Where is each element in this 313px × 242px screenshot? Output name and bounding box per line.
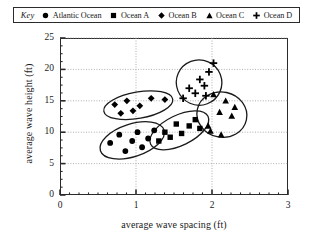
data-point-circle-marker-icon: [151, 127, 157, 133]
data-point-circle-marker-icon: [135, 129, 141, 135]
data-point-plus-marker-icon: [201, 82, 208, 89]
data-point-circle-marker-icon: [116, 132, 122, 138]
data-point-square-marker-icon: [193, 117, 198, 122]
data-point-circle-marker-icon: [122, 148, 128, 154]
data-point-square-marker-icon: [179, 131, 184, 136]
data-point-circle-marker-icon: [145, 136, 151, 142]
data-point-triangle-marker-icon: [222, 97, 229, 103]
data-point-circle-marker-icon: [107, 140, 113, 146]
data-point-square-marker-icon: [162, 130, 167, 135]
data-point-circle-marker-icon: [139, 144, 145, 150]
data-point-triangle-marker-icon: [216, 109, 223, 115]
data-point-diamond-marker-icon: [117, 110, 124, 117]
y-axis-minor-ticks: [60, 46, 63, 187]
data-point-triangle-marker-icon: [232, 104, 239, 110]
data-point-diamond-marker-icon: [161, 96, 168, 103]
data-point-square-marker-icon: [197, 126, 202, 131]
scatter-plot-figure: Key Atlantic Ocean Ocean A Ocean B: [0, 0, 313, 242]
data-point-square-marker-icon: [156, 138, 161, 143]
x-tick-label: 3: [278, 201, 298, 211]
data-point-diamond-marker-icon: [136, 102, 143, 109]
data-point-circle-marker-icon: [129, 138, 135, 144]
data-point-triangle-marker-icon: [228, 112, 235, 118]
data-point-diamond-marker-icon: [111, 101, 118, 108]
data-point-plus-marker-icon: [196, 76, 203, 83]
y-axis-title: average wave height (ft): [23, 24, 34, 204]
x-axis-title: average wave spacing (ft): [60, 219, 288, 230]
data-point-square-marker-icon: [174, 121, 179, 126]
x-tick-label: 0: [50, 201, 70, 211]
data-point-diamond-marker-icon: [123, 97, 130, 104]
x-axis-minor-ticks: [70, 192, 279, 195]
data-points: [107, 59, 238, 154]
data-point-plus-marker-icon: [210, 59, 217, 66]
data-point-square-marker-icon: [187, 123, 192, 128]
data-point-plus-marker-icon: [192, 90, 199, 97]
data-point-square-marker-icon: [168, 135, 173, 140]
x-tick-label: 2: [202, 201, 222, 211]
data-point-diamond-marker-icon: [130, 107, 137, 114]
data-point-plus-marker-icon: [186, 85, 193, 92]
x-tick-label: 1: [126, 201, 146, 211]
cluster-ellipses: [95, 53, 251, 167]
